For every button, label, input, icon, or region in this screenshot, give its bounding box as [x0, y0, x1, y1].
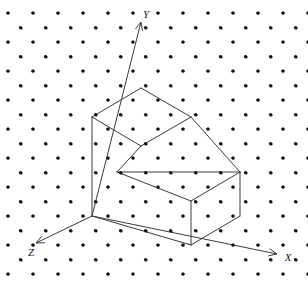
- lattice-dot: [19, 113, 22, 116]
- lattice-dot: [244, 84, 247, 87]
- lattice-dot: [131, 40, 134, 43]
- lattice-dot: [219, 142, 222, 145]
- lattice-dot: [231, 214, 234, 217]
- lattice-dot: [194, 171, 197, 174]
- lattice-dot: [231, 243, 234, 246]
- lattice-dot: [294, 113, 297, 116]
- lattice-dot: [156, 185, 159, 188]
- lattice-dot: [119, 84, 122, 87]
- lattice-dot: [69, 258, 72, 261]
- lattice-dot: [281, 69, 284, 72]
- lattice-dot: [231, 127, 234, 130]
- lattice-dot: [294, 258, 297, 261]
- axis-label-y: Y: [143, 8, 151, 20]
- lattice-dot: [281, 127, 284, 130]
- lattice-dot: [94, 113, 97, 116]
- lattice-dot: [156, 156, 159, 159]
- lattice-dot: [106, 40, 109, 43]
- lattice-dot: [181, 11, 184, 14]
- lattice-dot: [306, 40, 308, 43]
- lattice-dot: [206, 185, 209, 188]
- lattice-dot: [69, 55, 72, 58]
- lattice-dot: [156, 214, 159, 217]
- lattice-dot: [19, 200, 22, 203]
- lattice-dot: [256, 40, 259, 43]
- lattice-dot: [131, 127, 134, 130]
- lattice-dot: [119, 200, 122, 203]
- lattice-dot: [156, 98, 159, 101]
- lattice-dot: [206, 156, 209, 159]
- lattice-dot: [281, 272, 284, 275]
- lattice-dot: [6, 185, 9, 188]
- lattice-dot: [219, 171, 222, 174]
- lattice-dot: [169, 84, 172, 87]
- lattice-dot: [81, 69, 84, 72]
- lattice-dot: [106, 214, 109, 217]
- lattice-dot: [219, 200, 222, 203]
- axis-arrowhead-x-1: [268, 254, 277, 256]
- lattice-dot: [306, 98, 308, 101]
- lattice-dot: [19, 142, 22, 145]
- lattice-dot: [119, 26, 122, 29]
- lattice-dot: [181, 69, 184, 72]
- lattice-dot: [306, 185, 308, 188]
- lattice-dot: [156, 11, 159, 14]
- lattice-dot: [281, 11, 284, 14]
- lattice-dot: [94, 26, 97, 29]
- lattice-dot: [306, 127, 308, 130]
- lattice-dot: [119, 142, 122, 145]
- lattice-dot: [31, 40, 34, 43]
- lattice-dot: [6, 214, 9, 217]
- lattice-dot: [306, 272, 308, 275]
- lattice-dot: [194, 55, 197, 58]
- lattice-dot: [231, 156, 234, 159]
- lattice-dot: [294, 26, 297, 29]
- lattice-dot: [269, 200, 272, 203]
- lattice-dot: [206, 40, 209, 43]
- lattice-dot: [306, 214, 308, 217]
- lattice-dot: [69, 84, 72, 87]
- solid-edge-upper_top_front-to-riser_left: [117, 146, 141, 172]
- lattice-dot: [44, 171, 47, 174]
- lattice-dot: [106, 69, 109, 72]
- lattice-dot: [169, 200, 172, 203]
- lattice-dot: [294, 142, 297, 145]
- lattice-dot: [194, 142, 197, 145]
- lattice-dot: [144, 229, 147, 232]
- lattice-dot: [244, 200, 247, 203]
- solid-edge-upper_top_back-to-upper_top_right: [141, 88, 191, 117]
- lattice-dot: [94, 84, 97, 87]
- lattice-dot: [294, 55, 297, 58]
- solid-edge-riser_left-to-lower_top_front: [117, 172, 191, 201]
- lattice-dot: [44, 142, 47, 145]
- lattice-dot: [44, 26, 47, 29]
- lattice-dot: [44, 55, 47, 58]
- solid-edge-upper_top_left-to-upper_top_front: [92, 117, 141, 146]
- lattice-dot: [306, 69, 308, 72]
- lattice-dot: [256, 98, 259, 101]
- solid-edge-base_front-to-base_right: [191, 216, 240, 245]
- lattice-dot: [281, 185, 284, 188]
- lattice-dot: [206, 69, 209, 72]
- lattice-dot: [269, 26, 272, 29]
- lattice-dot: [6, 69, 9, 72]
- lattice-dot: [144, 55, 147, 58]
- lattice-dot: [56, 127, 59, 130]
- lattice-dot: [194, 26, 197, 29]
- lattice-dot: [131, 98, 134, 101]
- lattice-dot: [31, 11, 34, 14]
- lattice-dot: [56, 11, 59, 14]
- lattice-dot: [269, 142, 272, 145]
- lattice-dot: [56, 272, 59, 275]
- lattice-dot: [181, 127, 184, 130]
- lattice-dot: [31, 156, 34, 159]
- lattice-dot: [81, 40, 84, 43]
- lattice-dot: [156, 127, 159, 130]
- lattice-dot: [131, 272, 134, 275]
- lattice-dot: [44, 258, 47, 261]
- lattice-dot: [106, 156, 109, 159]
- axis-labels: XYZ: [28, 8, 293, 263]
- lattice-dot: [119, 171, 122, 174]
- lattice-dot: [131, 185, 134, 188]
- lattice-dot: [31, 214, 34, 217]
